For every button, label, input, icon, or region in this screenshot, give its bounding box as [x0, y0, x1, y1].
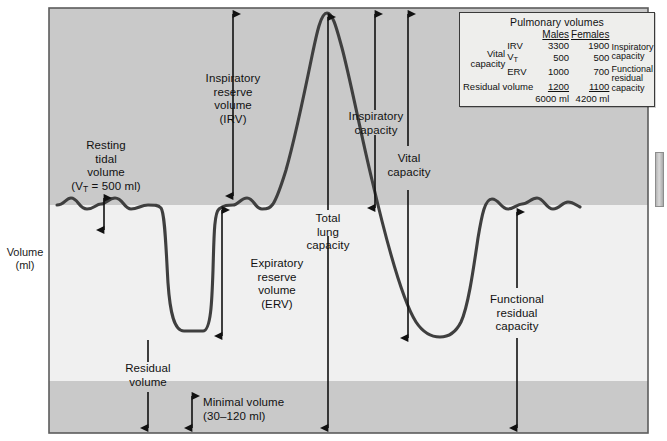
scrollbar-thumb[interactable] [655, 152, 664, 207]
label-minimal-volume: Minimal volume (30–120 ml) [203, 396, 327, 423]
vital-capacity-label-line2: capacity [470, 58, 505, 69]
ic-line2: capacity [332, 124, 420, 138]
resting-tidal-line4: (VT = 500 ml) [58, 180, 154, 196]
frc-line3: capacity [462, 320, 572, 334]
column-header-males: Males [534, 29, 570, 40]
cap-frc-line1: Functional [611, 64, 653, 74]
total-females: 4200 ml [570, 93, 610, 104]
pulmonary-volumes-legend: Pulmonary volumes Males Females Vital ca… [459, 12, 655, 107]
capacity-functional-residual: Functional residual capacity [610, 65, 654, 94]
row-vt-females: 500 [570, 51, 610, 65]
rv-line2: volume [104, 376, 192, 390]
cap-insp-line1: Inspiratory [611, 42, 653, 52]
pulmonary-volumes-table: Males Females Vital capacity IRV 3300 19… [462, 29, 654, 104]
resting-tidal-line3: volume [58, 166, 154, 180]
table-row-irv: Vital capacity IRV 3300 1900 Inspiratory… [462, 40, 654, 51]
row-vt-abbr: VT [506, 51, 534, 65]
resting-tidal-line1: Resting [58, 139, 154, 153]
ic-line1: Inspiratory [332, 110, 420, 124]
cap-frc-line2: residual [611, 73, 643, 83]
resting-tidal-line2: tidal [58, 153, 154, 167]
frc-line2: residual [462, 307, 572, 321]
y-axis-label: Volume (ml) [2, 246, 48, 272]
irv-line1: Inspiratory [163, 72, 303, 86]
table-row-total: 6000 ml 4200 ml [462, 93, 654, 104]
vc-line2: capacity [370, 166, 448, 180]
irv-line2: reserve [163, 86, 303, 100]
row-irv-males: 3300 [534, 40, 570, 51]
erv-line4: (ERV) [212, 298, 342, 312]
label-total-lung-capacity: Total lung capacity [286, 212, 370, 253]
row-rv-females: 1100 [570, 79, 610, 93]
column-header-females: Females [570, 29, 610, 40]
tlc-line1: Total [286, 212, 370, 226]
frc-line1: Functional [462, 293, 572, 307]
cap-frc-line3: capacity [611, 83, 644, 93]
mv-line1: Minimal volume [203, 396, 327, 410]
irv-line3: volume [163, 99, 303, 113]
row-vt-males: 500 [534, 51, 570, 65]
row-erv-males: 1000 [534, 65, 570, 79]
tlc-line3: capacity [286, 239, 370, 253]
row-irv-abbr: IRV [506, 40, 534, 51]
vc-line1: Vital [370, 152, 448, 166]
mv-line2: (30–120 ml) [203, 410, 327, 424]
row-vt-abbr-sub: T [514, 55, 519, 64]
y-axis-label-line1: Volume [2, 246, 48, 259]
label-inspiratory-capacity: Inspiratory capacity [332, 110, 420, 137]
erv-line1: Expiratory [212, 257, 342, 271]
legend-title: Pulmonary volumes [460, 16, 654, 28]
resting-tidal-vt-pre: (V [71, 180, 83, 192]
row-erv-females: 700 [570, 65, 610, 79]
y-axis-label-line2: (ml) [2, 259, 48, 272]
resting-tidal-vt-post: = 500 ml) [88, 180, 140, 192]
label-residual-volume: Residual volume [104, 362, 192, 389]
cap-insp-line2: capacity [611, 51, 644, 61]
tlc-line2: lung [286, 226, 370, 240]
capacity-inspiratory: Inspiratory capacity [610, 40, 654, 65]
label-vital-capacity: Vital capacity [370, 152, 448, 179]
erv-line3: volume [212, 284, 342, 298]
vital-capacity-row-label: Vital capacity [462, 40, 506, 79]
row-irv-females: 1900 [570, 40, 610, 51]
row-rv-males: 1200 [534, 79, 570, 93]
label-expiratory-reserve-volume: Expiratory reserve volume (ERV) [212, 257, 342, 311]
residual-volume-row-label: Residual volume [462, 79, 534, 93]
label-inspiratory-reserve-volume: Inspiratory reserve volume (IRV) [163, 72, 303, 126]
irv-line4: (IRV) [163, 113, 303, 127]
total-males: 6000 ml [534, 93, 570, 104]
table-header-row: Males Females [462, 29, 654, 40]
erv-line2: reserve [212, 271, 342, 285]
label-functional-residual-capacity: Functional residual capacity [462, 293, 572, 334]
rv-line1: Residual [104, 362, 192, 376]
row-erv-abbr: ERV [506, 65, 534, 79]
label-resting-tidal-volume: Resting tidal volume (VT = 500 ml) [58, 139, 154, 196]
